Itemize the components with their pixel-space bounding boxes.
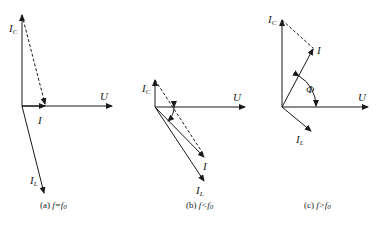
i-label: I [37, 114, 43, 126]
i-label: I [202, 160, 208, 172]
i-vector [155, 107, 204, 157]
ic-label: IC [267, 13, 277, 27]
u-label: U [100, 90, 109, 102]
panel-a: IC U I IL (a) f=f0 [8, 15, 112, 211]
phasor-diagram-figure: IC U I IL (a) f=f0 IC U I IL (b) f<f0 IC… [0, 0, 379, 226]
il-label: IL [295, 133, 304, 147]
panel-b: IC U I IL (b) f<f0 [141, 80, 245, 211]
panel-c: IC U I Φ IL (c) f>f0 [267, 13, 368, 211]
ic-label: IC [141, 82, 151, 96]
phase-angle-arc [168, 107, 174, 121]
caption-a: (a) f=f0 [40, 200, 67, 211]
il-label: IL [195, 184, 204, 198]
i-label: I [316, 44, 322, 56]
caption-c: (c) f>f0 [304, 200, 331, 211]
u-label: U [233, 91, 242, 103]
resultant-dashed-line [22, 15, 45, 104]
ic-label: IC [8, 22, 18, 36]
u-label: U [358, 91, 367, 103]
il-label: IL [29, 174, 38, 188]
caption-b: (b) f<f0 [186, 200, 214, 211]
il-vector [282, 107, 311, 131]
resultant-dashed-line [282, 20, 313, 48]
phi-label: Φ [306, 83, 315, 95]
i-vector [282, 49, 313, 107]
